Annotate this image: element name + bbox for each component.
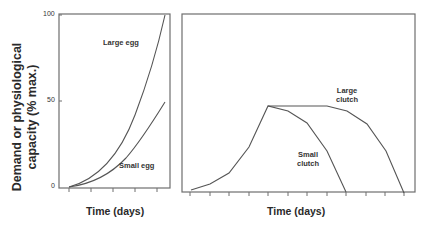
small-clutch-label: Small clutch [297,150,319,168]
small-egg-line [69,102,165,187]
large-clutch-line [268,106,404,193]
y-axis-label-line2: capacity (% max.) [25,43,40,192]
large-clutch-label-line1: Large [336,86,358,95]
right-x-axis-label: Time (days) [267,205,325,217]
ytick-100: 100 [43,10,55,17]
left-x-axis-label: Time (days) [86,205,144,217]
y-axis-label: Demand or physiological capacity (% max.… [4,22,46,212]
large-clutch-label: Large clutch [336,86,358,104]
chart-canvas [0,0,425,230]
ytick-50: 50 [47,96,55,103]
ytick-0: 0 [51,182,55,189]
small-clutch-line [191,106,346,192]
small-clutch-label-line2: clutch [297,159,319,168]
large-egg-label: Large egg [103,38,139,47]
small-egg-label: Small egg [119,161,154,170]
small-clutch-label-line1: Small [297,150,319,159]
large-clutch-label-line2: clutch [336,95,358,104]
right-x-ticks [190,192,404,196]
y-axis-label-line1: Demand or physiological [10,43,25,192]
left-x-ticks [69,188,157,192]
